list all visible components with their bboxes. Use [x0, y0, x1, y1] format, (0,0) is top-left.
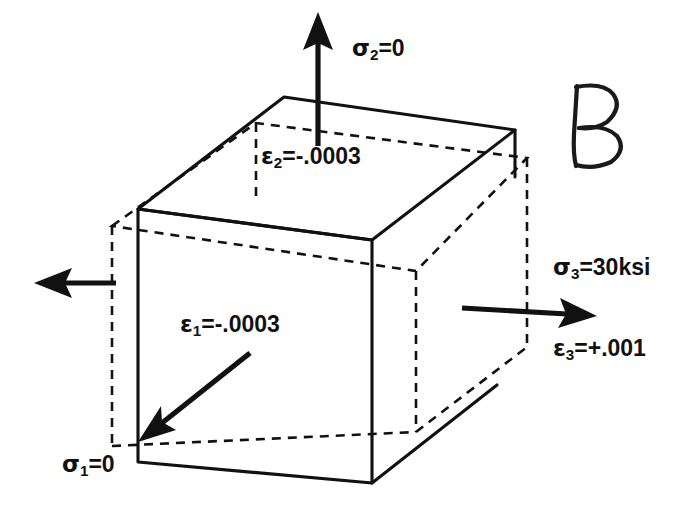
- sigma3-arrow: [462, 298, 597, 328]
- eps1-value: =-.0003: [201, 311, 280, 337]
- stress-element-diagram: σ2=0 ε2=-.0003 σ3=30ksi ε3=+.001 ε1=-.00…: [0, 0, 696, 525]
- eps2-symbol: ε: [261, 143, 274, 169]
- eps1-symbol: ε: [180, 311, 193, 337]
- sigma1-value: =0: [88, 451, 114, 477]
- eps3-value: =+.001: [574, 335, 646, 361]
- sigma2-arrow: [303, 12, 333, 146]
- eps1-subscript: 1: [193, 322, 201, 339]
- eps2-subscript: 2: [274, 154, 282, 171]
- solid-front-face: [138, 209, 372, 483]
- sigma3-label: σ3=30ksi: [553, 256, 650, 281]
- sigma3-value: =30ksi: [579, 254, 650, 280]
- eps1-arrow: [138, 353, 250, 442]
- eps3-subscript: 3: [566, 346, 574, 363]
- sigma1-symbol: σ: [62, 451, 80, 477]
- dashed-bottom-right-edge: [416, 347, 527, 432]
- handdrawn-b-icon: [563, 78, 643, 178]
- eps3-symbol: ε: [553, 335, 566, 361]
- sigma2-symbol: σ: [352, 35, 370, 61]
- sigma1-arrow: [34, 268, 116, 298]
- eps3-label: ε3=+.001: [553, 337, 646, 362]
- eps1-label: ε1=-.0003: [180, 313, 280, 338]
- deformed-outline-dashed: [112, 123, 527, 446]
- eps2-value: =-.0003: [282, 143, 361, 169]
- sigma2-label: σ2=0: [352, 37, 405, 62]
- sigma3-symbol: σ: [553, 254, 571, 280]
- sigma2-value: =0: [378, 35, 404, 61]
- sigma1-label: σ1=0: [62, 453, 115, 478]
- part-label-b: [563, 78, 643, 178]
- eps2-label: ε2=-.0003: [261, 145, 361, 170]
